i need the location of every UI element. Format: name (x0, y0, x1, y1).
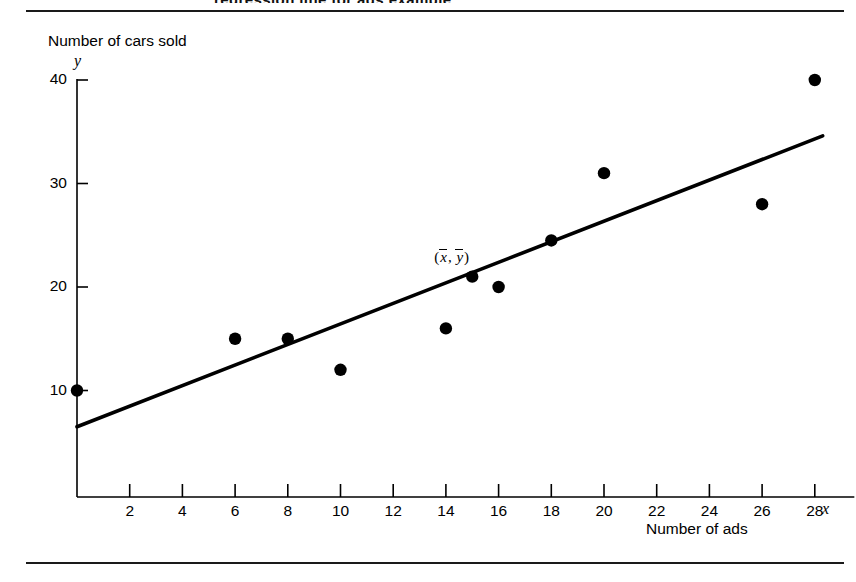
data-point-marker (545, 234, 557, 246)
x-axis-tick-label: 28 (790, 502, 840, 520)
centroid-label: (x, y) (434, 249, 469, 266)
x-axis-tick-label: 4 (157, 502, 207, 520)
x-axis-tick-label: 22 (632, 502, 682, 520)
y-axis-tick-label: 30 (21, 174, 67, 192)
y-axis-tick-label: 40 (21, 70, 67, 88)
data-point-marker (756, 198, 768, 210)
x-axis-tick-label: 24 (684, 502, 734, 520)
data-point-marker (440, 322, 452, 334)
plot-canvas (0, 0, 856, 582)
data-point-marker (229, 333, 241, 345)
data-point-marker (492, 281, 504, 293)
x-axis-tick-label: 12 (368, 502, 418, 520)
y-axis-tick-label: 20 (21, 277, 67, 295)
scatter-plot-figure: Number of cars sold Number of ads y x 10… (0, 0, 856, 582)
data-point-marker (334, 364, 346, 376)
data-point-marker (598, 167, 610, 179)
data-point-marker (809, 74, 821, 86)
annotation-text: ) (464, 249, 469, 265)
x-axis-tick-label: 2 (105, 502, 155, 520)
x-axis-tick-label: 20 (579, 502, 629, 520)
x-axis-tick-label: 26 (737, 502, 787, 520)
x-axis-tick-label: 8 (263, 502, 313, 520)
x-axis-tick-label: 14 (421, 502, 471, 520)
x-axis-tick-label: 18 (526, 502, 576, 520)
x-axis-tick-label: 6 (210, 502, 260, 520)
x-axis-tick-label: 10 (316, 502, 366, 520)
annotation-variable: y (455, 249, 464, 266)
annotation-text: , (448, 249, 456, 265)
data-point-marker (466, 270, 478, 282)
regression-line (77, 136, 823, 427)
y-axis-tick-label: 10 (21, 381, 67, 399)
data-point-marker (282, 333, 294, 345)
annotation-variable: x (439, 249, 448, 266)
x-axis-tick-label: 16 (474, 502, 524, 520)
data-point-marker (71, 384, 83, 396)
